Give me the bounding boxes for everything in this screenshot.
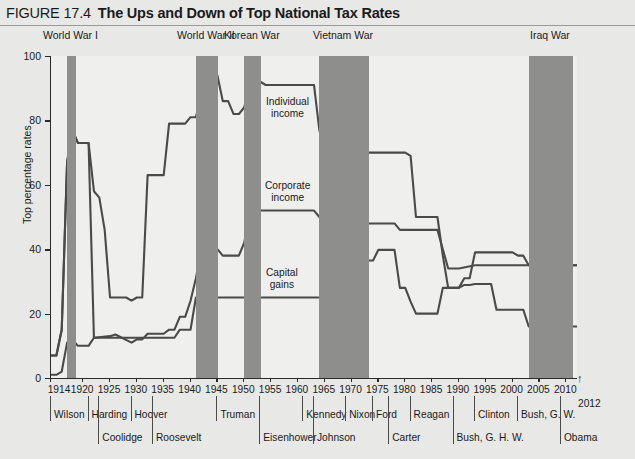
- x-tick-label-1985: 1985: [420, 384, 443, 395]
- y-tick-100: [45, 56, 50, 57]
- war-band-world-war-i: [67, 56, 76, 378]
- president-tick-eisenhower: [259, 396, 260, 433]
- x-tick-1985: [431, 378, 432, 382]
- war-label-vietnam-war: Vietnam War: [313, 29, 373, 41]
- x-tick-label-1960: 1960: [286, 384, 309, 395]
- president-tick-hoover: [131, 396, 132, 410]
- president-label-kennedy: Kennedy: [302, 409, 346, 421]
- y-tick-80: [45, 120, 50, 121]
- x-tick-1965: [324, 378, 325, 382]
- war-band-world-war-ii: [196, 56, 219, 378]
- series-line-corporate-income: [51, 208, 577, 375]
- series-line-individual-income: [51, 75, 577, 355]
- x-tick-1940: [190, 378, 191, 382]
- x-tick-1920: [82, 378, 83, 382]
- x-tick-1930: [136, 378, 137, 382]
- president-label-coolidge: Coolidge: [98, 432, 142, 444]
- x-tick-1995: [485, 378, 486, 382]
- president-tick-bush-g-w-: [517, 396, 518, 410]
- y-tick-label-0: 0: [9, 372, 41, 384]
- x-tick-label-1930: 1930: [125, 384, 148, 395]
- series-lines: [51, 56, 577, 378]
- x-tick-1970: [351, 378, 352, 382]
- x-tick-label-2005: 2005: [527, 384, 550, 395]
- x-tick-label-1935: 1935: [151, 384, 174, 395]
- president-tick-nixon: [345, 396, 346, 410]
- president-label-ford: Ford: [372, 409, 397, 421]
- president-label-eisenhower: Eisenhower: [259, 432, 316, 444]
- president-tick-wilson: [50, 396, 51, 410]
- war-band-korean-war: [244, 56, 261, 378]
- annotation-capital-gains: Capitalgains: [263, 266, 301, 291]
- x-tick-label-1940: 1940: [178, 384, 201, 395]
- president-label-carter: Carter: [388, 432, 420, 444]
- war-label-world-war-i: World War I: [43, 29, 98, 41]
- war-label-korean-war: Korean War: [224, 29, 280, 41]
- plot-area: Top percentage rates IndividualincomeCor…: [50, 56, 577, 378]
- president-label-bush-g-h-w-: Bush, G. H. W.: [453, 432, 524, 444]
- x-tick-1914: [50, 378, 51, 382]
- y-tick-label-20: 20: [9, 308, 41, 320]
- y-tick-label-100: 100: [9, 50, 41, 62]
- y-tick-label-60: 60: [9, 179, 41, 191]
- war-label-iraq-war: Iraq War: [530, 29, 570, 41]
- president-label-nixon: Nixon: [345, 409, 375, 421]
- x-tick-1945: [216, 378, 217, 382]
- president-tick-carter: [388, 396, 389, 433]
- annotation-individual-income: Individualincome: [263, 95, 312, 120]
- president-label-truman: Truman: [216, 409, 255, 421]
- war-band-iraq-war: [529, 56, 574, 378]
- figure-number: FIGURE 17.4: [6, 5, 91, 21]
- x-tick-label-1975: 1975: [366, 384, 389, 395]
- x-tick-1950: [243, 378, 244, 382]
- x-tick-label-1925: 1925: [98, 384, 121, 395]
- x-tick-1925: [109, 378, 110, 382]
- x-axis-end-arrow: ↑: [577, 374, 583, 383]
- y-tick-20: [45, 314, 50, 315]
- x-tick-label-2010: 2010: [554, 384, 577, 395]
- x-tick-label-1965: 1965: [312, 384, 335, 395]
- x-tick-2000: [512, 378, 513, 382]
- annotation-corporate-income: Corporateincome: [262, 179, 313, 204]
- x-axis-line: [50, 378, 577, 379]
- figure-root: FIGURE 17.4The Ups and Down of Top Natio…: [0, 0, 635, 459]
- president-tick-bush-g-h-w-: [453, 396, 454, 433]
- president-tick-reagan: [410, 396, 411, 410]
- y-tick-label-40: 40: [9, 243, 41, 255]
- president-label-clinton: Clinton: [474, 409, 510, 421]
- president-tick-kennedy: [302, 396, 303, 410]
- x-tick-label-1990: 1990: [447, 384, 470, 395]
- president-tick-johnson: [313, 396, 314, 433]
- president-tick-obama: [560, 396, 561, 433]
- series-line-capital-gains: [51, 130, 577, 355]
- figure-title-bar: FIGURE 17.4The Ups and Down of Top Natio…: [6, 4, 626, 24]
- x-tick-label-1980: 1980: [393, 384, 416, 395]
- war-band-vietnam-war: [319, 56, 368, 378]
- president-tick-harding: [88, 396, 89, 410]
- x-tick-1975: [377, 378, 378, 382]
- figure-title: The Ups and Down of Top National Tax Rat…: [98, 5, 400, 21]
- x-tick-label-1920: 1920: [71, 384, 94, 395]
- x-tick-1955: [270, 378, 271, 382]
- x-tick-label-1950: 1950: [232, 384, 255, 395]
- x-tick-label-2000: 2000: [500, 384, 523, 395]
- x-tick-2010: [565, 378, 566, 382]
- president-label-bush-g-w-: Bush, G. W.: [517, 409, 575, 421]
- x-tick-label-1914: 1914: [48, 384, 71, 395]
- y-tick-60: [45, 185, 50, 186]
- president-tick-ford: [372, 396, 373, 410]
- president-label-roosevelt: Roosevelt: [152, 432, 201, 444]
- president-label-johnson: Johnson: [313, 432, 356, 444]
- x-tick-label-1995: 1995: [473, 384, 496, 395]
- president-tick-clinton: [474, 396, 475, 410]
- president-label-obama: Obama: [560, 432, 597, 444]
- x-tick-1990: [458, 378, 459, 382]
- y-axis-title: Top percentage rates: [21, 125, 33, 224]
- president-label-wilson: Wilson: [50, 409, 85, 421]
- president-label-hoover: Hoover: [131, 409, 168, 421]
- president-tick-coolidge: [98, 396, 99, 433]
- x-tick-1980: [404, 378, 405, 382]
- x-tick-label-1970: 1970: [339, 384, 362, 395]
- president-tick-roosevelt: [152, 396, 153, 433]
- x-axis-end-note: 2012: [578, 398, 601, 409]
